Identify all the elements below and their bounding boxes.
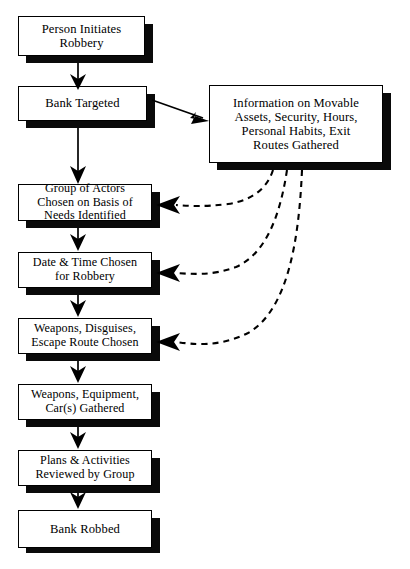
node-label-bank-robbed: Bank Robbed [19,522,151,536]
node-label-group-of-actors: Group of Actors Chosen on Basis of Needs… [19,182,151,223]
node-label-person-initiates: Person Initiates Robbery [19,22,144,50]
edge-bank-targeted-to-group-of-actors [70,128,86,184]
edge-plans-reviewed-to-bank-robbed [70,492,86,509]
edge-information-to-group-of-actors-dashed [156,170,273,214]
node-person-initiates[interactable]: Person Initiates Robbery [18,16,145,56]
node-weapons-disguises[interactable]: Weapons, Disguises, Escape Route Chosen [18,318,152,354]
node-information-gathered[interactable]: Information on Movable Assets, Security,… [209,85,383,163]
node-label-information-gathered: Information on Movable Assets, Security,… [210,96,382,152]
edge-weapons-disguises-to-weapons-equipment [70,361,86,383]
edge-information-to-weapons-disguises-dashed [156,170,302,351]
edge-bank-targeted-to-information-gathered [152,100,209,124]
edge-date-time-chosen-to-weapons-disguises [70,295,86,317]
flowchart-diagram: Person Initiates Robbery Bank Targeted I… [0,0,410,569]
node-label-bank-targeted: Bank Targeted [19,96,146,110]
edge-weapons-equipment-to-plans-reviewed [70,427,86,449]
node-date-time-chosen[interactable]: Date & Time Chosen for Robbery [18,252,152,288]
edge-information-to-date-time-chosen-dashed [156,170,287,282]
edge-group-of-actors-to-date-time-chosen [70,228,86,251]
node-label-plans-reviewed: Plans & Activities Reviewed by Group [19,454,151,482]
node-label-weapons-disguises: Weapons, Disguises, Escape Route Chosen [19,322,151,350]
node-weapons-equipment[interactable]: Weapons, Equipment, Car(s) Gathered [18,384,152,420]
node-label-date-time-chosen: Date & Time Chosen for Robbery [19,256,151,284]
node-plans-reviewed[interactable]: Plans & Activities Reviewed by Group [18,450,152,486]
node-label-weapons-equipment: Weapons, Equipment, Car(s) Gathered [19,388,151,416]
node-group-of-actors[interactable]: Group of Actors Chosen on Basis of Needs… [18,184,152,221]
node-bank-robbed[interactable]: Bank Robbed [18,510,152,548]
node-bank-targeted[interactable]: Bank Targeted [18,86,147,121]
